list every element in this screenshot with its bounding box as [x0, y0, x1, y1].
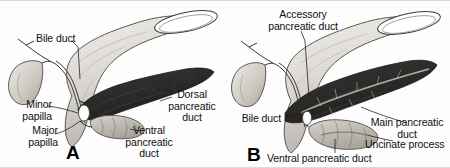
label-bile-duct-b: Bile duct — [223, 113, 281, 125]
label-main-pancreatic-duct: Main pancreatic duct — [365, 117, 449, 140]
papilla-region-b — [303, 111, 312, 125]
anatomy-figure: Bile duct Minor papilla Major papilla Do… — [0, 0, 450, 168]
label-accessory-pancreatic-duct: Accessory pancreatic duct — [255, 9, 351, 32]
label-major-papilla: Major papilla — [2, 125, 58, 148]
gallbladder-b — [232, 63, 266, 107]
label-ventral-pancreatic-duct-a: Ventral pancreatic duct — [114, 125, 184, 160]
panel-a: Bile duct Minor papilla Major papilla Do… — [0, 1, 225, 168]
panel-letter-b: B — [247, 145, 261, 164]
label-uncinate-process: Uncinate process — [365, 139, 445, 151]
label-ventral-pancreatic-duct-b: Ventral pancreatic duct — [267, 153, 372, 165]
label-minor-papilla: Minor papilla — [2, 99, 52, 122]
panel-b: Accessory pancreatic duct Bile duct Main… — [225, 1, 450, 168]
label-dorsal-pancreatic-duct: Dorsal pancreatic duct — [160, 89, 224, 124]
panel-letter-a: A — [66, 143, 80, 162]
label-bile-duct-a: Bile duct — [36, 33, 75, 45]
